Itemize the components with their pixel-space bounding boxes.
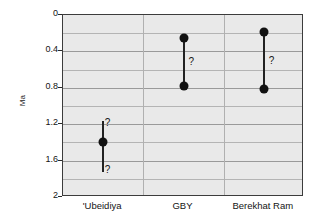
data-point-marker [99,138,108,147]
y-axis-tick-label: 1.2 [28,117,58,127]
y-axis-tick-label: 2 [28,190,58,200]
plot-area: ???? [62,14,303,196]
data-point-marker [259,28,268,37]
uncertainty-question-mark: ? [105,118,111,128]
uncertainty-question-mark: ? [105,165,111,175]
gridline-vertical [143,15,144,195]
x-axis-category-label: 'Ubeidiya [83,200,122,211]
gridline-horizontal [63,106,302,107]
gridline-horizontal [63,124,302,125]
data-point-marker [259,84,268,93]
gridline-horizontal [63,161,302,162]
chart-figure: Ma 00.40.81.21.62 ???? 'UbeidiyaGBYBerek… [0,0,317,224]
uncertainty-question-mark: ? [189,57,195,67]
y-axis-tick-label: 0 [28,8,58,18]
y-axis-tick-label: 0.4 [28,44,58,54]
uncertainty-question-mark: ? [269,56,275,66]
y-axis-title: Ma [18,89,27,113]
y-axis-tick-label: 0.8 [28,81,58,91]
range-line [263,32,265,88]
gridline-horizontal [63,179,302,180]
range-line [183,38,185,86]
x-axis-category-label: GBY [172,200,192,211]
data-point-marker [179,81,188,90]
x-axis-category-label: Berekhat Ram [232,200,293,211]
y-axis-tick-mark [58,196,62,197]
gridline-vertical [224,15,225,195]
y-axis-tick-label: 1.6 [28,154,58,164]
x-axis-category-labels: 'UbeidiyaGBYBerekhat Ram [62,200,303,216]
y-axis-tick-labels: 00.40.81.21.62 [28,0,58,224]
data-point-marker [179,33,188,42]
